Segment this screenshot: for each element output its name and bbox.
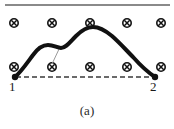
field-symbol-into-page xyxy=(123,63,131,71)
field-symbol-into-page xyxy=(48,63,56,71)
field-symbol-into-page xyxy=(48,19,56,27)
figure-container: 1 2 (a) xyxy=(0,0,174,129)
field-symbol-into-page xyxy=(10,63,18,71)
deformed-wire-curve xyxy=(15,27,155,77)
field-symbol-into-page xyxy=(157,63,165,71)
field-symbol-into-page xyxy=(123,19,131,27)
field-symbol-into-page xyxy=(10,19,18,27)
figure-caption: (a) xyxy=(0,104,174,117)
endpoint-label-1: 1 xyxy=(9,80,16,93)
field-symbol-into-page xyxy=(86,63,94,71)
endpoint-label-2: 2 xyxy=(150,80,157,93)
field-symbol-into-page xyxy=(157,19,165,27)
